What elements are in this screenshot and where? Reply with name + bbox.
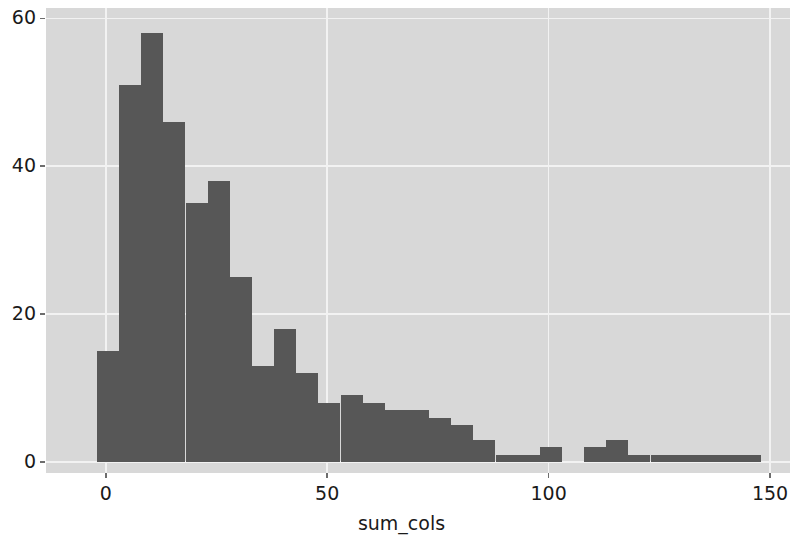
x-axis-label: sum_cols [0,512,803,534]
histogram-bar [296,373,318,462]
histogram-bar [451,425,473,462]
histogram-bar [628,455,650,462]
histogram-bar [97,351,119,462]
histogram-bar [739,455,761,462]
histogram-bar [584,447,606,462]
histogram-bar [429,418,451,462]
histogram-bar [186,203,208,462]
histogram-figure: 0204060 050100150 sum_cols [0,0,803,551]
histogram-bar [540,447,562,462]
plot-area [46,8,790,473]
histogram-bar [473,440,495,462]
histogram-bar [695,455,717,462]
histogram-bar [252,366,274,462]
x-tick-mark [548,473,550,478]
x-tick-label: 150 [752,482,788,504]
x-tick-label: 0 [100,482,112,504]
histogram-bar [651,455,673,462]
y-tick-label: 60 [0,6,36,28]
histogram-bar [518,455,540,462]
histogram-bar [274,329,296,462]
y-tick-mark [40,165,45,167]
histogram-bar [606,440,628,462]
histogram-bar [496,455,518,462]
histogram-bar [407,410,429,462]
histogram-bar [341,395,363,462]
y-tick-label: 0 [0,450,36,472]
histogram-bar [230,277,252,462]
y-tick-mark [40,313,45,315]
histogram-bar [208,181,230,462]
histogram-bar [119,85,141,462]
x-tick-mark [326,473,328,478]
histogram-bar [717,455,739,462]
y-tick-label: 40 [0,154,36,176]
y-tick-mark [40,461,45,463]
histogram-bar [318,403,340,462]
x-tick-mark [769,473,771,478]
x-tick-mark [105,473,107,478]
y-tick-mark [40,18,45,20]
x-tick-label: 50 [315,482,339,504]
x-tick-label: 100 [531,482,567,504]
histogram-bars [46,8,790,473]
histogram-bar [363,403,385,462]
histogram-bar [163,122,185,462]
histogram-bar [673,455,695,462]
y-tick-label: 20 [0,302,36,324]
histogram-bar [141,33,163,462]
histogram-bar [385,410,407,462]
